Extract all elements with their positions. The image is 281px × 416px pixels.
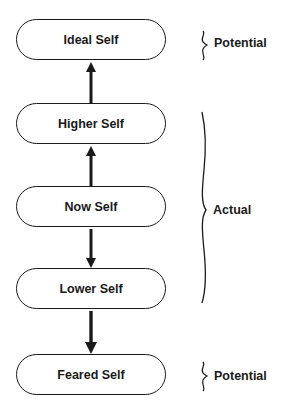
brace-potential-bottom (202, 362, 207, 391)
arrow-higher-to-ideal (86, 62, 96, 103)
node-lower-self: Lower Self (16, 268, 166, 309)
group-label-actual: Actual (213, 203, 251, 217)
node-label: Feared Self (57, 368, 124, 382)
brace-actual (202, 112, 206, 303)
node-feared-self: Feared Self (16, 354, 166, 395)
node-label: Now Self (65, 200, 118, 214)
node-now-self: Now Self (16, 186, 166, 227)
brace-potential-top (202, 31, 207, 60)
node-ideal-self: Ideal Self (16, 19, 166, 60)
arrow-now-to-lower (86, 229, 96, 268)
group-label-potential-top: Potential (214, 36, 267, 50)
node-higher-self: Higher Self (16, 103, 166, 144)
node-label: Higher Self (58, 117, 124, 131)
arrow-lower-to-feared (85, 311, 97, 354)
node-label: Ideal Self (64, 33, 119, 47)
arrow-now-to-higher (86, 146, 96, 186)
group-label-potential-bottom: Potential (214, 369, 267, 383)
node-label: Lower Self (59, 282, 122, 296)
